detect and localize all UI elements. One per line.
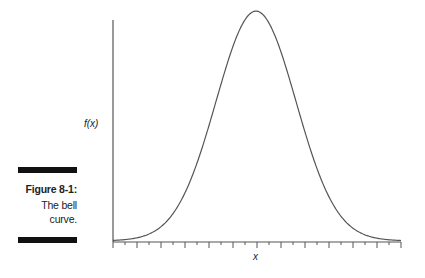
caption-top-bar	[18, 167, 77, 173]
figure-label: Figure 8-1:	[0, 183, 77, 195]
x-axis-label: x	[253, 251, 258, 262]
x-axis-ticks	[113, 242, 401, 248]
caption-bottom-bar	[18, 237, 77, 243]
caption-line-1: The bell	[0, 199, 77, 212]
y-axis-label: f(x)	[84, 118, 98, 129]
caption-line-2: curve.	[0, 213, 77, 226]
bell-curve-line	[113, 11, 401, 240]
